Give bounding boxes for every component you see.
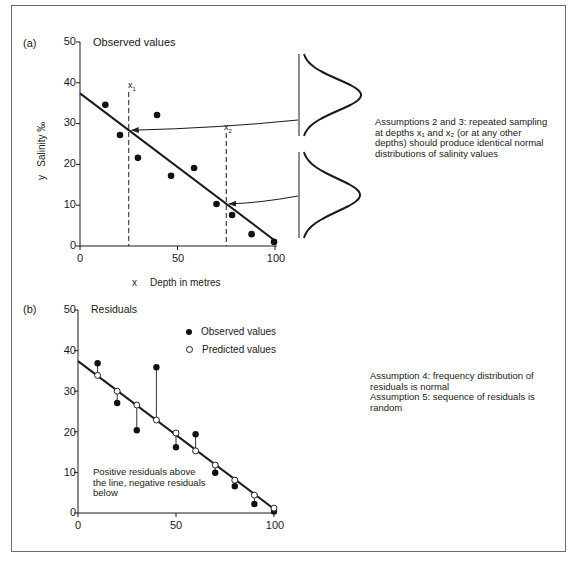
panel-b-plot	[74, 310, 277, 517]
observed-point	[229, 212, 236, 219]
observed-point	[212, 470, 218, 476]
predicted-point	[153, 417, 159, 423]
predicted-point	[114, 388, 120, 394]
observed-point	[173, 444, 179, 450]
predicted-point	[232, 477, 238, 483]
arrow-to-x2	[229, 196, 298, 204]
observed-point	[213, 201, 220, 208]
observed-point	[94, 360, 100, 366]
predicted-point	[212, 462, 218, 468]
arrow-to-x1	[132, 120, 298, 130]
observed-point	[153, 364, 159, 370]
chart-graphics	[0, 0, 573, 568]
predicted-point	[251, 492, 257, 498]
predicted-point	[271, 505, 277, 511]
observed-point	[271, 239, 278, 246]
predicted-point	[95, 372, 101, 378]
observed-point	[192, 431, 198, 437]
normal-distribution-curves	[299, 54, 361, 238]
observed-point	[251, 501, 257, 507]
observed-point	[134, 427, 140, 433]
observed-point	[191, 165, 198, 172]
observed-point	[154, 112, 161, 119]
predicted-point	[134, 402, 140, 408]
observed-point	[232, 483, 238, 489]
regression-line	[80, 93, 275, 240]
observed-point	[117, 132, 124, 139]
observed-point	[102, 102, 109, 109]
normal-curve	[304, 152, 360, 238]
observed-point	[168, 173, 175, 180]
predicted-point	[193, 448, 199, 454]
predicted-point	[173, 430, 179, 436]
normal-curve	[304, 54, 361, 136]
observed-point	[114, 400, 120, 406]
panel-a-plot	[76, 42, 298, 250]
observed-point	[248, 231, 255, 238]
observed-point	[135, 155, 142, 162]
